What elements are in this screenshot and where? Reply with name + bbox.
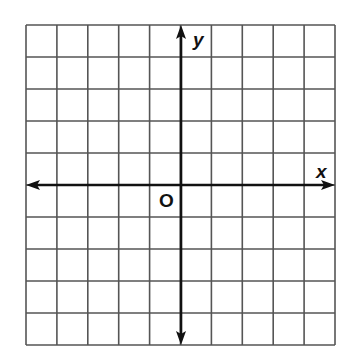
axes xyxy=(26,25,335,345)
y-axis-label: y xyxy=(193,30,204,49)
x-axis-label: x xyxy=(316,162,327,181)
coordinate-plane xyxy=(0,0,357,360)
origin-label: O xyxy=(159,191,174,210)
